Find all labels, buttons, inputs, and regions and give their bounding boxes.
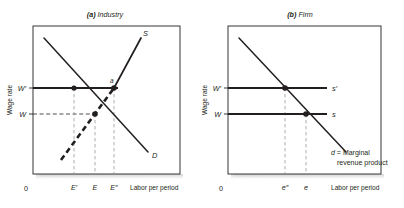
panel-industry-xtick-e-label: E — [93, 183, 98, 192]
panel-firm-marker-e — [303, 111, 309, 117]
panel-firm-shadow-bottom — [231, 174, 384, 179]
panel-industry: (a) Industry Wage rate D S a W′ — [6, 10, 183, 193]
panel-firm-ylabel: Wage rate — [201, 85, 209, 116]
panel-industry-marker-a — [111, 85, 117, 91]
panel-industry-demand-curve-label: D — [152, 151, 158, 160]
panel-firm-ytick-w-label: W — [214, 110, 222, 119]
panel-industry-xtick-edoubleprime-label: E″ — [110, 183, 118, 192]
figure-container: (a) Industry Wage rate D S a W′ — [0, 0, 404, 208]
panel-firm-mrp-annotation-line1: d = Marginal — [331, 149, 370, 157]
panel-industry-marker-eprime — [71, 85, 76, 90]
panel-firm-origin-label: 0 — [219, 184, 223, 193]
panel-industry-origin-label: 0 — [24, 184, 28, 193]
panel-industry-title-text: Industry — [96, 10, 124, 19]
panel-industry-ytick-wprime-label: W′ — [18, 84, 27, 93]
panel-firm-ytick-wprime-label: W′ — [213, 84, 222, 93]
panel-firm-xtick-e-label: e — [304, 183, 308, 192]
panel-industry-xlabel: Labor per period — [130, 184, 179, 192]
panel-firm-title-text: Firm — [296, 10, 312, 19]
panel-firm-xlabel: Labor per period — [331, 184, 380, 192]
panel-firm-supply-line-prime-label: s′ — [332, 84, 338, 93]
panel-industry-supply-curve-label: S — [143, 29, 148, 38]
panel-firm-marker-edoubleprime — [282, 85, 288, 91]
panel-industry-ylabel: Wage rate — [6, 85, 14, 116]
panel-industry-ytick-w-label: W — [19, 110, 27, 119]
panel-industry-marker-e — [92, 111, 98, 117]
panel-industry-shadow-bottom — [36, 174, 183, 179]
panel-firm-xtick-edoubleprime-label: e″ — [282, 183, 289, 192]
panel-firm-mrp-line1-rest: = Marginal — [335, 149, 370, 157]
panel-industry-title: (a) Industry — [87, 10, 124, 19]
panel-industry-point-a-label: a — [110, 77, 114, 84]
panel-firm-supply-line-label: s — [332, 110, 336, 119]
panel-industry-xtick-eprime-label: E′ — [71, 183, 78, 192]
panel-firm: (b) Firm Wage rate s′ s W′ W e″ e 0 — [201, 10, 388, 193]
panel-firm-mrp-annotation-line2: revenue product — [337, 159, 388, 167]
labor-market-figure: (a) Industry Wage rate D S a W′ — [0, 0, 404, 208]
panel-firm-title: (b) Firm — [287, 10, 313, 19]
